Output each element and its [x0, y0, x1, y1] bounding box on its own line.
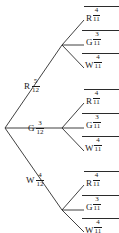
branch-label-w: W 4 12 — [26, 172, 44, 189]
leaf-fraction: 3 11 — [93, 196, 101, 213]
branch-label-r: R 5 12 — [24, 78, 40, 95]
leaf-row-g-r: R 4 11 — [86, 90, 100, 107]
leaf-outcome: W — [85, 61, 94, 70]
branch-w-to-w — [62, 210, 84, 232]
leaf-outcome: G — [86, 38, 93, 47]
branch-w-to-r — [62, 185, 84, 210]
branch-r-to-w — [62, 45, 84, 68]
branch-outcome-w: W — [26, 176, 35, 185]
leaf-row-g-g: G 3 11 — [86, 114, 101, 131]
branch-r-to-r — [62, 20, 84, 45]
leaf-fraction: 4 11 — [93, 90, 101, 107]
branch-root-to-w — [5, 128, 62, 210]
leaf-row-w-g: G 3 11 — [86, 196, 101, 213]
leaf-fraction: 4 11 — [94, 54, 102, 71]
leaf-outcome: R — [86, 97, 92, 106]
leaf-outcome: R — [86, 179, 92, 188]
leaf-row-r-w: W 4 11 — [85, 54, 102, 71]
leaf-outcome: W — [85, 144, 94, 153]
branch-g-to-w — [62, 128, 84, 151]
branch-fraction-r: 5 12 — [32, 78, 40, 95]
leaf-outcome: W — [85, 226, 94, 233]
leaf-row-g-w: W 4 11 — [85, 137, 102, 154]
leaf-fraction: 3 11 — [93, 31, 101, 48]
leaf-outcome: R — [86, 14, 92, 23]
branch-g-to-r — [62, 103, 84, 128]
branch-outcome-g: G — [28, 124, 35, 133]
leaf-row-w-r: R 4 11 — [86, 172, 100, 189]
leaf-row-r-g: G 3 11 — [86, 31, 101, 48]
leaf-fraction: 4 11 — [93, 7, 101, 24]
leaf-fraction: 4 11 — [94, 137, 102, 154]
branch-label-g: G 3 12 — [28, 120, 44, 137]
leaf-outcome: G — [86, 121, 93, 130]
leaf-fraction: 3 11 — [93, 114, 101, 131]
branch-outcome-r: R — [24, 82, 30, 91]
branch-fraction-w: 4 12 — [36, 172, 44, 189]
leaf-outcome: G — [86, 203, 93, 212]
leaf-row-r-r: R 4 11 — [86, 7, 100, 24]
leaf-row-w-w: W 4 11 — [85, 219, 102, 233]
branch-fraction-g: 3 12 — [36, 120, 44, 137]
leaf-fraction: 4 11 — [93, 172, 101, 189]
tree-branch-lines — [0, 0, 119, 233]
probability-tree-diagram: R 5 12 G 3 12 W 4 12 R 4 11 G — [0, 0, 119, 233]
leaf-fraction: 4 11 — [94, 219, 102, 233]
